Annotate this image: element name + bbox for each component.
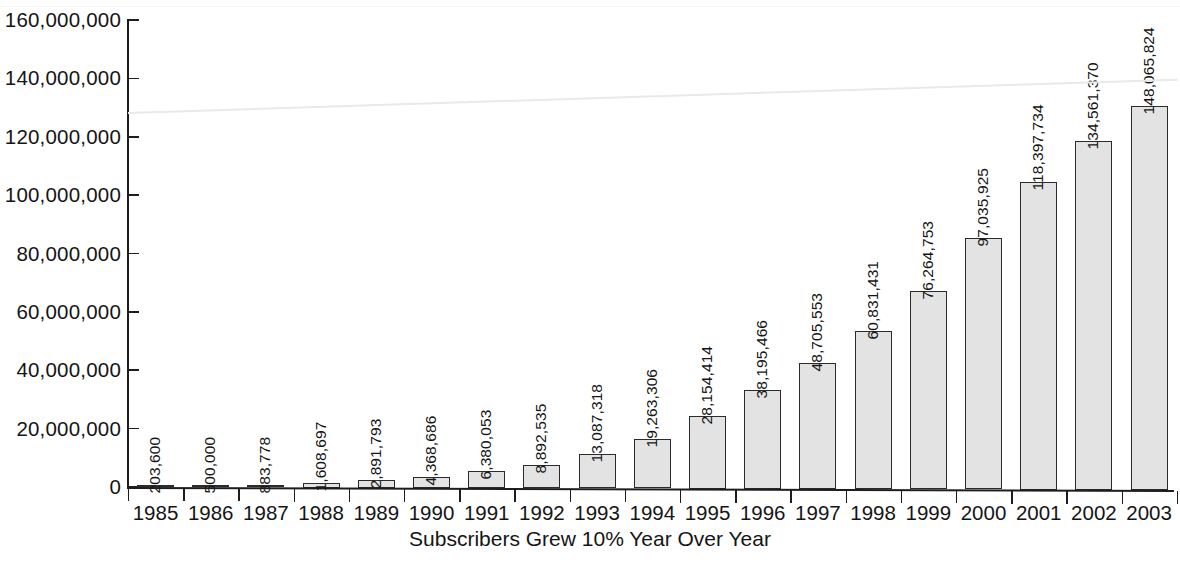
bar-value-label: 148,065,824 [1140,27,1156,114]
bar [855,331,892,489]
x-axis-tick-label: 2003 [1114,503,1180,524]
bar-value-label: 203,600 [147,436,163,493]
bar-value-label: 60,831,431 [864,261,880,340]
x-axis-tick [349,489,351,502]
bar [965,238,1002,490]
bar-value-label: 118,397,734 [1030,105,1046,191]
chart-caption: Subscribers Grew 10% Year Over Year [0,528,1180,549]
bar-value-label: 2,891,793 [367,419,383,489]
bar-value-label: 134,561,370 [1085,62,1101,149]
bar-value-label: 6,380,053 [478,410,494,480]
y-axis-tick [127,136,139,138]
x-axis-tick [846,490,848,503]
scan-artifact-diagonal-line [128,79,1178,115]
y-axis-tick [127,194,139,196]
x-axis-tick [294,489,296,502]
y-axis-tick-label: 100,000,000 [0,185,121,206]
x-axis-tick [238,488,240,501]
x-axis-tick [1066,491,1068,504]
y-axis-tick [127,369,139,371]
y-axis-tick [127,253,139,255]
y-axis-tick [127,78,139,80]
bar-chart: 020,000,00040,000,00060,000,00080,000,00… [0,0,1180,567]
y-axis-tick [127,19,139,21]
y-axis-tick-label: 120,000,000 [0,127,121,148]
bar [744,390,781,489]
bar [799,363,836,489]
bar [1020,182,1057,489]
x-axis-tick [680,490,682,503]
x-axis-tick [735,490,737,503]
bar-value-label: 38,195,466 [754,320,770,399]
bar-value-label: 8,892,535 [533,404,549,474]
x-axis-tick [404,489,406,502]
bar-value-label: 76,264,753 [919,221,935,300]
y-axis-tick [127,428,139,430]
bar [1075,141,1112,490]
bar [910,291,947,489]
y-axis-tick [127,311,139,313]
bar-value-label: 13,087,318 [588,384,604,463]
bar-value-label: 500,000 [202,437,218,494]
x-axis-tick [790,490,792,503]
x-axis-tick [183,488,185,501]
bar-value-label: 4,368,686 [423,415,439,485]
bar-value-label: 19,263,306 [643,368,659,447]
bar-value-label: 97,035,925 [975,168,991,247]
x-axis-tick [514,489,516,502]
y-axis-tick-label: 60,000,000 [0,302,121,323]
x-axis-tick [956,490,958,503]
x-axis-tick [128,488,130,501]
y-axis-tick-label: 40,000,000 [0,360,121,381]
bar-value-label: 1,608,697 [312,422,328,492]
y-axis-tick-label: 0 [0,477,121,498]
bar [689,416,726,489]
x-axis-tick [570,489,572,502]
bar [1131,106,1168,490]
x-axis-tick [459,489,461,502]
y-axis-tick-label: 20,000,000 [0,419,121,440]
y-axis-tick-label: 80,000,000 [0,244,121,265]
bar-value-label: 48,705,553 [809,293,825,372]
x-axis-tick [625,489,627,502]
x-axis-tick [1011,491,1013,504]
y-axis-tick-label: 160,000,000 [0,10,121,31]
y-axis-tick-label: 140,000,000 [0,68,121,89]
bar-value-label: 883,778 [257,437,273,494]
x-axis-tick [1122,491,1124,504]
x-axis-tick [1177,491,1179,504]
x-axis-tick [901,490,903,503]
scan-artifact-top-line [0,6,1180,7]
bar-value-label: 28,154,414 [699,346,715,425]
